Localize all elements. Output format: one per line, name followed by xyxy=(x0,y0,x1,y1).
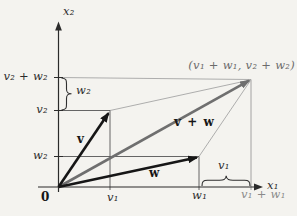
brace-label-w2: w₂ xyxy=(76,85,91,97)
tick-label-v1: v₁ xyxy=(107,192,119,204)
tick-label-w1: w₁ xyxy=(192,190,207,202)
vector-w-arrow xyxy=(59,158,197,187)
brace-v1-segment xyxy=(202,176,250,186)
guide-line-v2w2-level xyxy=(59,78,252,80)
y-axis-arrow-icon xyxy=(55,22,62,31)
vector-w-label: w xyxy=(149,167,160,179)
vector-addition-figure: x₂ x₁ 0 v₂ + w₂ v₂ w₂ w₂ v₁ w₁ v₁ + w₁ v… xyxy=(0,0,297,216)
tick-label-v2: v₂ xyxy=(2,104,48,116)
brace-label-v1: v₁ xyxy=(218,160,230,172)
parallelogram-side-top xyxy=(110,80,250,111)
brace-w2-segment xyxy=(62,78,72,110)
vector-v-label: v xyxy=(77,133,84,145)
tick-label-v2-plus-w2: v₂ + w₂ xyxy=(2,71,48,83)
tick-label-v1-plus-w1: v₁ + w₁ xyxy=(241,189,286,201)
sum-point-label: (v₁ + w₁, v₂ + w₂) xyxy=(188,60,295,72)
y-axis-label: x₂ xyxy=(63,6,75,18)
origin-label: 0 xyxy=(41,191,50,203)
vector-v-arrow xyxy=(59,113,109,187)
vector-sum-label: v + w xyxy=(174,116,215,128)
tick-label-w2: w₂ xyxy=(2,150,48,162)
